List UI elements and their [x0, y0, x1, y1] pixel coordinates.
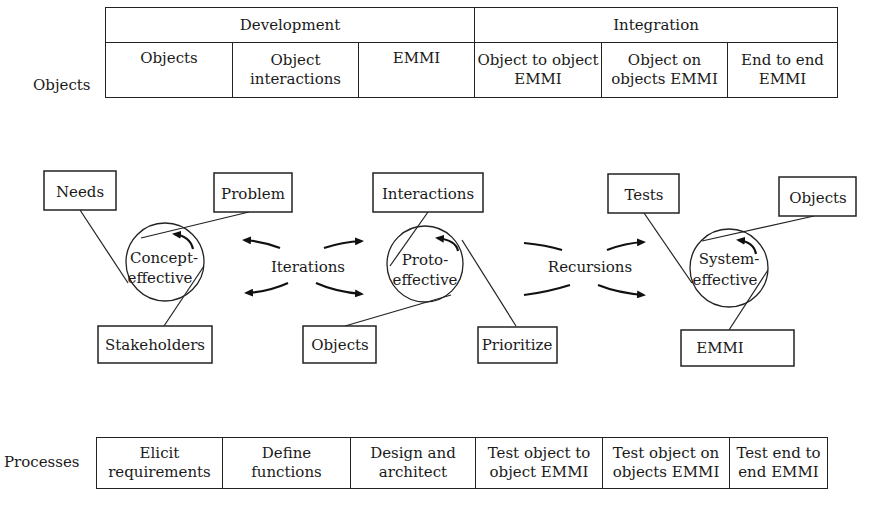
- recursions-label: Recursions: [548, 258, 632, 276]
- svg-text:Objects: Objects: [311, 336, 369, 354]
- input-box-tests: Tests: [608, 174, 679, 213]
- process-cell: Test object on objects EMMI: [603, 438, 730, 489]
- input-box-objects-2: Objects: [779, 177, 856, 216]
- svg-text:Objects: Objects: [789, 189, 847, 207]
- svg-text:Problem: Problem: [221, 185, 285, 203]
- iterations-label: Iterations: [271, 258, 345, 276]
- svg-text:Stakeholders: Stakeholders: [105, 336, 205, 354]
- transition-iterations: Iterations: [244, 240, 362, 294]
- svg-text:Tests: Tests: [624, 186, 663, 204]
- stage-label: Concept-: [130, 249, 198, 267]
- process-cell: Test object to object EMMI: [476, 438, 603, 489]
- input-box-stakeholders: Stakeholders: [98, 326, 212, 363]
- process-cell: Define functions: [223, 438, 351, 489]
- input-box-needs: Needs: [44, 171, 116, 210]
- svg-text:Needs: Needs: [56, 183, 104, 201]
- svg-text:EMMI: EMMI: [696, 339, 744, 357]
- process-cell: Elicit requirements: [97, 438, 223, 489]
- stage-concept-effective: Concept- effective Needs Problem Stakeho…: [44, 171, 292, 363]
- svg-text:Prioritize: Prioritize: [482, 336, 553, 354]
- input-box-emmi: EMMI: [681, 330, 794, 366]
- svg-text:Interactions: Interactions: [382, 185, 474, 203]
- input-box-objects: Objects: [303, 326, 376, 363]
- stage-label: effective: [128, 269, 193, 287]
- stage-label: System-: [699, 250, 760, 268]
- transition-recursions: Recursions: [524, 242, 644, 295]
- processes-table: Elicit requirements Define functions Des…: [96, 437, 828, 489]
- input-box-problem: Problem: [214, 173, 292, 212]
- stage-label: effective: [393, 271, 458, 289]
- stage-system-effective: System- effective Tests Objects EMMI: [608, 174, 856, 366]
- input-box-interactions: Interactions: [373, 173, 483, 212]
- processes-row-label: Processes: [4, 453, 80, 471]
- process-cell: Design and architect: [351, 438, 476, 489]
- input-box-prioritize: Prioritize: [478, 327, 557, 363]
- process-cell: Test end to end EMMI: [730, 438, 828, 489]
- stage-label: effective: [693, 271, 758, 289]
- stage-label: Proto-: [402, 251, 448, 269]
